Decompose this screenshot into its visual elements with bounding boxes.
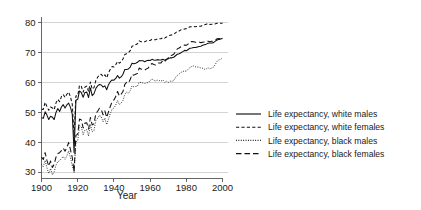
chart-svg: 304050607080 190019201940196019802000 Ye… [0, 0, 421, 210]
y-tick-label-70: 70 [25, 47, 36, 58]
x-tick-label-1980: 1980 [176, 182, 197, 193]
x-tick-label-1920: 1920 [67, 182, 88, 193]
x-axis-title: Year [117, 190, 138, 201]
x-tick-label-1900: 1900 [31, 182, 52, 193]
y-tick-label-60: 60 [25, 77, 36, 88]
life-expectancy-chart-figure: 304050607080 190019201940196019802000 Ye… [0, 0, 421, 210]
y-tick-label-80: 80 [25, 17, 36, 28]
x-tick-label-2000: 2000 [212, 182, 233, 193]
legend-label-0: Life expectancy, white males [268, 109, 377, 119]
x-tick-label-1960: 1960 [140, 182, 161, 193]
legend-label-3: Life expectancy, black females [268, 149, 384, 159]
y-tick-label-30: 30 [25, 166, 36, 177]
y-tick-label-50: 50 [25, 107, 36, 118]
legend-label-2: Life expectancy, black males [268, 136, 377, 146]
legend-label-1: Life expectancy, white females [268, 122, 384, 132]
y-tick-label-40: 40 [25, 137, 36, 148]
